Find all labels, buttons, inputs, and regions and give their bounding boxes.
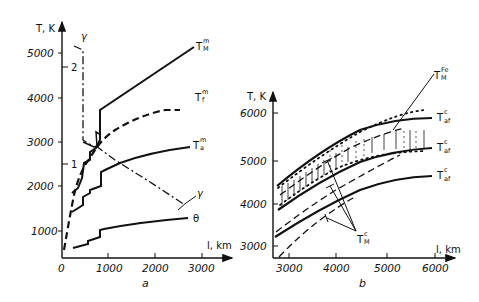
svg-text:c: c — [444, 108, 448, 116]
panel-a-ytick-2000: 2000 — [27, 180, 54, 192]
label-T-af-c-middle: T — [436, 142, 444, 153]
panel-b-chart: T, K l, km 6000 5000 4000 3000 3000 4000… — [240, 66, 461, 290]
label-T-af-c-lower: T — [436, 170, 444, 181]
svg-text:M: M — [203, 45, 209, 53]
panel-a-xtick-3000: 3000 — [188, 262, 215, 274]
panel-b-ytick-5000: 5000 — [240, 155, 267, 167]
svg-text:m: m — [203, 37, 209, 45]
panel-a-gamma-tick-1: 1 — [71, 159, 77, 170]
T-M-Fe-pointer — [393, 74, 434, 130]
panel-b-x-label: l, km — [436, 244, 461, 255]
svg-text:M: M — [441, 74, 447, 82]
series-theta — [73, 218, 188, 248]
panel-a-xtick-1000: 1000 — [96, 262, 123, 274]
label-gamma-top: γ — [81, 31, 88, 42]
panel-a-chart: T, K l, km 5000 4000 3000 2000 1000 2 1 … — [27, 22, 232, 290]
panel-a-xtick-2000: 2000 — [142, 262, 169, 274]
panel-b-caption: b — [359, 277, 366, 290]
series-T-M-c-1 — [280, 128, 405, 195]
label-T-a-m: T — [192, 140, 200, 151]
panel-a-caption: a — [142, 277, 149, 290]
panel-b-xtick-4000: 4000 — [323, 262, 350, 274]
panel-b-xtick-5000: 5000 — [374, 262, 401, 274]
panel-b-ytick-6000: 6000 — [240, 107, 267, 119]
label-T-af-c-upper: T — [436, 112, 444, 123]
panel-a-ytick-1000: 1000 — [31, 225, 58, 237]
svg-text:af: af — [444, 117, 451, 125]
panel-a-ytick-5000: 5000 — [27, 47, 54, 59]
svg-text:M: M — [364, 238, 370, 246]
svg-text:a: a — [200, 144, 204, 152]
panel-a-ytick-3000: 3000 — [27, 136, 54, 148]
panel-b-y-ticks — [273, 113, 278, 246]
series-T-af-c-lower — [275, 176, 432, 237]
label-T-M-c: T — [356, 234, 364, 245]
svg-text:m: m — [202, 88, 208, 96]
panel-b-xtick-3000: 3000 — [276, 262, 303, 274]
panel-b-ytick-4000: 4000 — [240, 198, 267, 210]
panel-a-gamma-tick-2: 2 — [71, 62, 77, 73]
svg-text:c: c — [444, 166, 448, 174]
label-theta: θ — [193, 213, 199, 224]
label-T-f-m: T — [194, 92, 202, 103]
label-T-M-m: T — [195, 41, 203, 52]
panel-b-x-ticks — [289, 253, 435, 258]
panel-a-xtick-0: 0 — [58, 262, 65, 274]
label-T-M-Fe: T — [433, 70, 441, 81]
panel-a-ytick-4000: 4000 — [27, 92, 54, 104]
panel-b-xtick-6000: 6000 — [422, 262, 449, 274]
svg-text:c: c — [444, 138, 448, 146]
hatched-region — [282, 130, 424, 206]
panel-b-y-label: T, K — [246, 91, 266, 102]
series-T-af-c-upper — [277, 118, 432, 186]
svg-text:af: af — [444, 175, 451, 183]
svg-text:Fe: Fe — [441, 66, 448, 74]
figure: T, K l, km 5000 4000 3000 2000 1000 2 1 … — [0, 0, 479, 302]
panel-a-x-ticks — [108, 253, 202, 258]
panel-a-x-label: l, km — [207, 240, 232, 251]
series-gamma — [74, 46, 185, 205]
svg-text:m: m — [200, 136, 206, 144]
svg-text:c: c — [364, 230, 368, 238]
svg-text:af: af — [444, 147, 451, 155]
panel-b-ytick-3000: 3000 — [240, 240, 267, 252]
label-gamma-right: γ — [197, 188, 204, 199]
svg-text:f: f — [202, 96, 205, 104]
panel-a-y-label: T, K — [35, 23, 55, 34]
